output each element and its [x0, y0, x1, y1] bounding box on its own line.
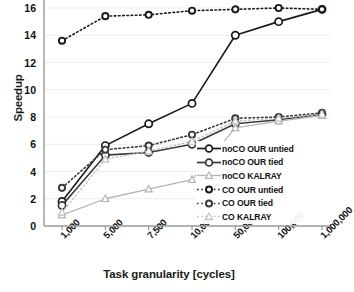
data-point	[319, 6, 325, 12]
data-point	[146, 12, 152, 18]
y-axis-tick-label: 14	[10, 30, 36, 40]
data-point	[102, 147, 108, 153]
series-co-our-untied	[59, 5, 325, 44]
legend-item[interactable]: noCO OUR untied	[196, 142, 332, 156]
legend-marker-icon	[196, 156, 222, 169]
y-axis-tick-label: 12	[10, 58, 36, 68]
data-point	[232, 32, 239, 39]
y-axis-tick-label: 6	[10, 139, 36, 149]
chart-legend: noCO OUR untiednoCO OUR tiednoCO KALRAYC…	[196, 141, 332, 224]
x-axis-label: Task granularity [cycles]	[44, 268, 294, 280]
data-point	[145, 120, 152, 127]
data-point	[59, 185, 65, 191]
legend-label: CO KALRAY	[222, 212, 271, 222]
legend-label: noCO OUR tied	[222, 157, 283, 167]
legend-marker-icon	[196, 197, 222, 210]
legend-item[interactable]: noCO OUR tied	[196, 156, 332, 170]
legend-label: CO OUR tied	[222, 198, 273, 208]
legend-marker-icon	[196, 169, 222, 182]
data-point	[276, 5, 282, 11]
data-point	[232, 6, 238, 12]
y-axis-tick-label: 10	[10, 85, 36, 95]
data-point	[188, 100, 195, 107]
legend-marker-icon	[196, 210, 222, 223]
legend-label: CO OUR untied	[222, 185, 283, 195]
y-axis-tick-label: 16	[10, 3, 36, 13]
data-point	[275, 18, 282, 25]
y-axis-tick-label: 8	[10, 112, 36, 122]
data-point	[102, 13, 108, 19]
legend-item[interactable]: CO OUR untied	[196, 183, 332, 197]
legend-marker-icon	[196, 142, 222, 155]
y-axis-tick-label: 0	[10, 221, 36, 231]
data-point	[59, 38, 65, 44]
legend-marker-icon	[196, 183, 222, 196]
data-point	[189, 8, 195, 14]
y-axis-tick-label: 2	[10, 194, 36, 204]
legend-item[interactable]: noCO KALRAY	[196, 169, 332, 183]
legend-item[interactable]: CO OUR tied	[196, 196, 332, 210]
legend-item[interactable]: CO KALRAY	[196, 210, 332, 224]
legend-label: noCO OUR untied	[222, 144, 294, 154]
y-axis-tick-label: 4	[10, 167, 36, 177]
y-axis-label: Speedup	[12, 58, 24, 138]
legend-label: noCO KALRAY	[222, 171, 282, 181]
